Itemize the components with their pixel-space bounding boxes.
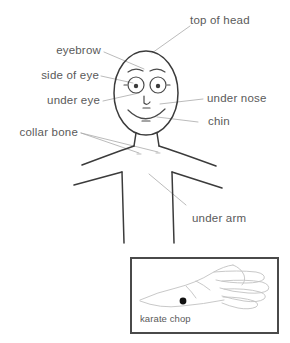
leader-eyebrow [104,52,144,69]
hand-inset: karate chop [131,258,278,333]
shoulder-left [82,146,134,165]
shoulder-right [159,146,216,166]
label-under-arm: under arm [192,212,246,224]
leader-top-of-head [152,26,190,53]
torso-side-left [122,172,124,243]
label-karate-chop: karate chop [140,313,191,324]
arm-left [74,172,122,185]
pupil-right [156,84,160,88]
label-side-of-eye: side of eye [41,69,99,81]
nose [144,96,150,104]
leader-under-eye [103,93,139,101]
label-under-nose: under nose [207,92,267,104]
leader-under-arm [149,174,186,205]
tapping-points-diagram: top of head eyebrow side of eye under ey… [0,0,290,343]
diagram-canvas: top of head eyebrow side of eye under ey… [0,0,290,343]
leader-collar-bone-right [81,133,158,152]
label-chin: chin [208,115,230,127]
eyebrow-left [128,69,143,72]
head-outline [114,51,178,135]
torso-side-right [172,172,174,243]
label-under-eye: under eye [47,94,100,106]
pupil-left [134,84,138,88]
head-group [114,51,178,135]
label-top-of-head: top of head [190,14,250,26]
label-collar-bone: collar bone [20,126,78,138]
leader-collar-bone-left [81,133,139,153]
eyebrow-right [150,69,165,72]
karate-chop-point-dot [180,298,187,305]
leader-under-nose [160,99,203,104]
label-eyebrow: eyebrow [56,44,101,56]
leader-chin [157,117,198,122]
arm-right [172,172,222,188]
